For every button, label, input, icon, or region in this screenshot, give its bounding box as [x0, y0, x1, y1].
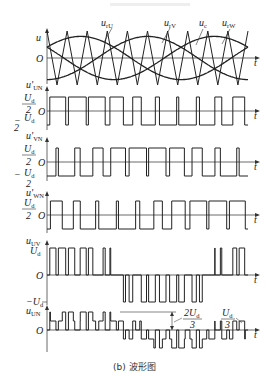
- svg-text:O: O: [36, 325, 43, 336]
- svg-text:Ud: Ud: [24, 143, 35, 155]
- svg-text:2: 2: [26, 210, 31, 221]
- svg-text:u'VN: u'VN: [26, 130, 43, 142]
- y-arrow-icon: [45, 240, 49, 245]
- svg-text:−: −: [14, 169, 21, 180]
- panel-u-UV: uUV Ud O −Ud t: [26, 235, 260, 308]
- panel-u-UN: uUN O t 2Ud 3 Ud 3: [26, 305, 260, 352]
- top-caption-remnant: [110, 3, 190, 6]
- origin-label: O: [36, 53, 43, 64]
- y-arrow-icon: [45, 137, 49, 142]
- y-arrow-icon: [45, 191, 49, 196]
- svg-text:O: O: [38, 157, 45, 168]
- waveform-u-UN: [47, 312, 248, 348]
- panel-u-UN-prime: u'UN Ud 2 O − Ud t: [14, 79, 260, 130]
- y-label-u: u: [36, 32, 41, 43]
- svg-text:O: O: [38, 106, 45, 117]
- svg-text:Ud: Ud: [24, 112, 35, 124]
- svg-text:t: t: [254, 161, 257, 172]
- y-arrow-icon: [45, 305, 49, 310]
- svg-text:t: t: [254, 214, 257, 225]
- label-u-c: uc: [196, 17, 207, 45]
- y-arrow-icon: [45, 86, 49, 91]
- svg-text:u'UN: u'UN: [26, 79, 43, 91]
- svg-text:urV: urV: [164, 17, 176, 29]
- t-label: t: [254, 57, 257, 68]
- waveform-u-UV: [47, 248, 248, 302]
- svg-text:O: O: [36, 270, 43, 281]
- svg-text:2Ud: 2Ud: [184, 307, 200, 319]
- svg-text:2: 2: [14, 122, 19, 133]
- svg-text:2: 2: [26, 156, 31, 167]
- level-label-pos: Ud: [24, 92, 35, 104]
- svg-text:t: t: [254, 329, 257, 340]
- svg-text:3: 3: [189, 319, 195, 330]
- svg-text:3: 3: [224, 319, 230, 330]
- panel-u-VN-prime: 2 u'VN Ud 2 O − Ud t: [14, 122, 260, 181]
- waveform-figure: u O t urU urV uc urW u'UN Ud 2 O −: [0, 0, 278, 376]
- svg-text:urU: urU: [101, 17, 113, 29]
- svg-text:uc: uc: [199, 17, 207, 29]
- panel-u-WN-prime: 2 u'WN Ud 2 O t: [22, 178, 260, 233]
- svg-text:Ud: Ud: [222, 307, 233, 319]
- label-u-rU: urU: [101, 17, 113, 42]
- panel-modulation: u O t urU urV uc urW: [36, 17, 260, 85]
- svg-text:t: t: [254, 274, 257, 285]
- svg-text:t: t: [254, 110, 257, 121]
- svg-text:urW: urW: [222, 17, 236, 29]
- svg-text:O: O: [38, 210, 45, 221]
- figure-caption: (b) 波形图: [113, 361, 156, 372]
